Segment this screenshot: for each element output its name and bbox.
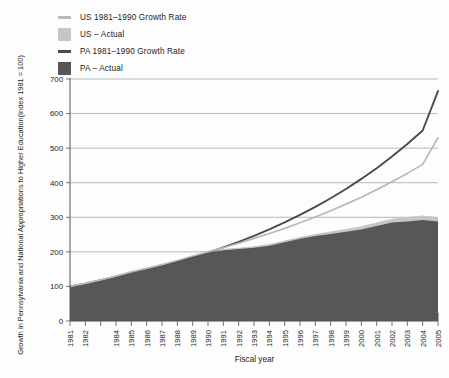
chart-figure: US 1981–1990 Growth Rate US – Actual PA … (0, 0, 449, 378)
x-tick-label: 1984 (112, 330, 121, 347)
chart-plot-area: 0100200300400500600700 19811982198419851… (0, 0, 449, 378)
x-tick-label: 1996 (296, 330, 305, 347)
x-tick-label: 1995 (281, 330, 290, 347)
x-tick-label: 1999 (342, 330, 351, 347)
x-tick-label: 2002 (388, 330, 397, 347)
x-tick-label: 1988 (173, 330, 182, 347)
x-tick-label: 2004 (419, 330, 428, 347)
x-tick-label: 1997 (311, 330, 320, 347)
x-tick-label: 1986 (143, 330, 152, 347)
x-axis-ticks: 1981198219841985198619871988198919901991… (66, 321, 443, 347)
x-tick-label: 1982 (81, 330, 90, 347)
y-tick-label: 500 (50, 144, 64, 153)
x-tick-label: 2005 (434, 330, 443, 347)
x-tick-label: 2000 (357, 330, 366, 347)
x-tick-label: 1991 (219, 330, 228, 347)
y-tick-label: 700 (50, 75, 64, 84)
x-tick-label: 1993 (250, 330, 259, 347)
area-series-group (70, 216, 438, 321)
y-axis-ticks: 0100200300400500600700 (50, 75, 70, 326)
x-tick-label: 1994 (265, 330, 274, 347)
x-tick-label: 1989 (189, 330, 198, 347)
x-tick-label: 1985 (127, 330, 136, 347)
y-tick-label: 200 (50, 248, 64, 257)
y-tick-label: 100 (50, 282, 64, 291)
x-tick-label: 1987 (158, 330, 167, 347)
x-tick-label: 1992 (235, 330, 244, 347)
y-tick-label: 0 (59, 317, 64, 326)
x-tick-label: 1990 (204, 330, 213, 347)
y-tick-label: 300 (50, 213, 64, 222)
x-tick-label: 1998 (327, 330, 336, 347)
x-tick-label: 1981 (66, 330, 75, 347)
x-tick-label: 2003 (403, 330, 412, 347)
x-tick-label: 2001 (373, 330, 382, 347)
y-tick-label: 400 (50, 179, 64, 188)
y-tick-label: 600 (50, 109, 64, 118)
x-axis-title: Fiscal year (0, 355, 449, 364)
